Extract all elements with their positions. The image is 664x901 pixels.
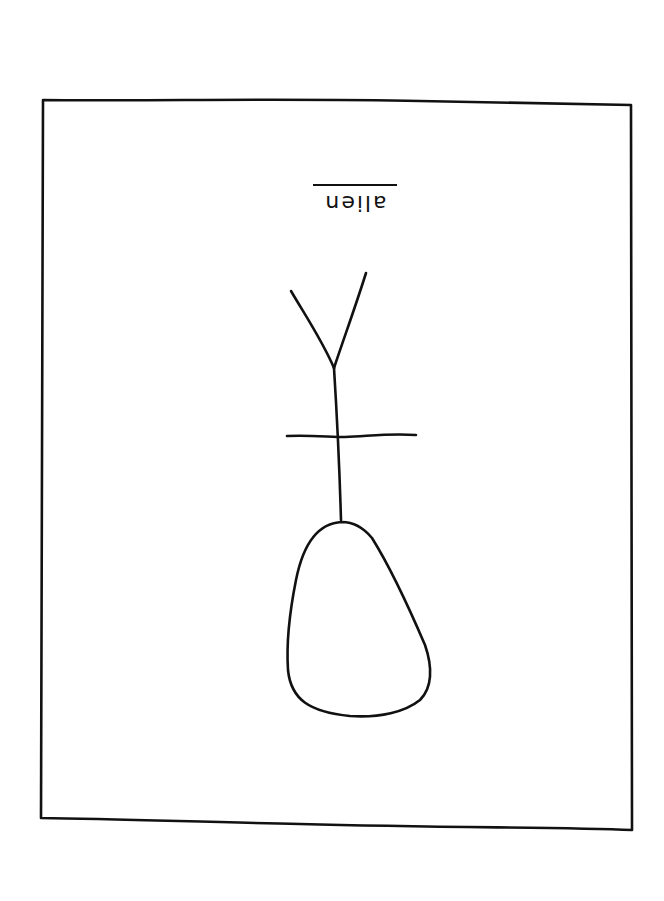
alien-label-text: alien (313, 184, 396, 218)
egg-shape-head (287, 522, 430, 716)
alien-label: alien (300, 178, 410, 218)
antenna-left-branch (291, 291, 334, 368)
sketch-canvas (0, 0, 664, 901)
antenna-right-branch (334, 273, 366, 368)
crossbar (287, 434, 416, 437)
stem (334, 368, 341, 520)
